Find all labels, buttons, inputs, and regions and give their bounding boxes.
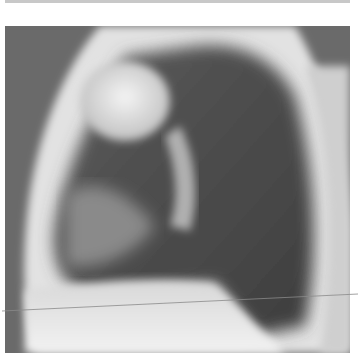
xray-rendering (5, 26, 350, 353)
chest-xray-image (5, 26, 350, 353)
aortic-shadow (80, 61, 170, 141)
top-border-strip (5, 0, 350, 3)
